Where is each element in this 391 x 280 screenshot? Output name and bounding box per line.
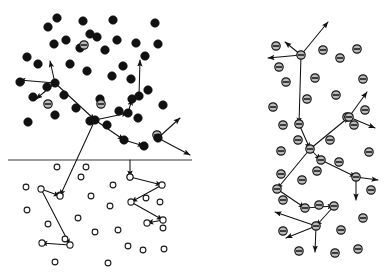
open-particle (83, 164, 89, 170)
hatched-particle (97, 100, 105, 108)
open-particle (160, 225, 166, 231)
hatched-particle (279, 196, 287, 204)
open-particle (140, 247, 146, 253)
solid-particle (51, 111, 60, 120)
solid-particle (134, 114, 143, 123)
solid-particle (53, 14, 62, 23)
open-particle (62, 236, 68, 242)
hatched-particle (277, 147, 285, 155)
open-particle (128, 199, 134, 205)
open-particle (157, 199, 163, 205)
hatched-particle (337, 226, 345, 234)
hatched-particle (319, 46, 327, 54)
solid-particle (159, 101, 168, 110)
solid-particle (16, 78, 25, 87)
trajectory-arrow (139, 60, 140, 96)
open-particle (159, 182, 165, 188)
solid-particle (120, 136, 129, 145)
hatched-particle (335, 158, 343, 166)
solid-particle (140, 142, 149, 151)
hatched-particle (301, 204, 309, 212)
hatched-particle (306, 145, 314, 153)
open-particle (92, 229, 98, 235)
trajectory-arrow (286, 226, 316, 238)
hatched-particle (295, 247, 303, 255)
hatched-particle (279, 121, 287, 129)
hatched-particle (312, 222, 320, 230)
open-particle (67, 242, 73, 248)
solid-particle (103, 121, 112, 130)
open-particle (107, 203, 113, 209)
open-particle (45, 221, 51, 227)
open-particle (23, 184, 29, 190)
trajectory-arrow (158, 138, 190, 155)
right-panel (268, 22, 378, 257)
hatched-particle (336, 54, 344, 62)
open-particle-group (23, 164, 167, 266)
open-particle (24, 207, 30, 213)
hatched-particle (345, 113, 353, 121)
solid-particle (108, 72, 117, 81)
open-particle (115, 227, 121, 233)
solid-particle (83, 67, 92, 76)
hatched-particle (326, 136, 334, 144)
open-particle (88, 193, 94, 199)
hatched-particle (80, 41, 88, 49)
trajectory-arrow (95, 113, 128, 120)
hatched-particle (330, 202, 338, 210)
hatched-particle (44, 100, 52, 108)
hatched-particle (295, 120, 303, 128)
hatched-particle (298, 176, 306, 184)
open-particle (75, 215, 81, 221)
left-panel (8, 14, 192, 266)
solid-particle (93, 33, 102, 42)
hatched-particle (303, 95, 311, 103)
hatched-particle (353, 45, 361, 53)
hatched-particle (331, 249, 339, 257)
solid-particle (151, 19, 160, 28)
open-particle (127, 174, 133, 180)
solid-particle (24, 118, 33, 127)
solid-particle (113, 36, 122, 45)
open-particle (105, 260, 111, 266)
trajectory-diagram (0, 0, 391, 280)
hatched-particle (313, 167, 321, 175)
hatched-particle (359, 75, 367, 83)
hatched-particle (317, 156, 325, 164)
solid-particle (72, 104, 81, 113)
solid-particle (44, 23, 53, 32)
open-particle (160, 217, 166, 223)
hatched-particle (273, 185, 281, 193)
solid-particle (154, 134, 163, 143)
trajectory-arrow (299, 55, 301, 124)
hatched-particle (297, 51, 305, 59)
trajectory-arrow (268, 55, 301, 58)
solid-particle (127, 75, 136, 84)
hatched-particle (282, 78, 290, 86)
solid-particle (43, 83, 52, 92)
trajectory-arrow (60, 120, 95, 196)
hatched-particle (332, 91, 340, 99)
solid-particle (135, 92, 144, 101)
solid-particle (79, 17, 88, 26)
hatched-particle (272, 42, 280, 50)
solid-particle (60, 91, 69, 100)
open-particle (52, 259, 58, 265)
hatched-particle (315, 201, 323, 209)
open-particle (161, 246, 167, 252)
hatched-particle (269, 103, 277, 111)
hatched-particle (294, 136, 302, 144)
hatched-particle (361, 106, 369, 114)
figure-root (0, 0, 391, 280)
solid-particle (91, 116, 100, 125)
solid-particle (141, 52, 150, 61)
open-particle (54, 164, 60, 170)
hatched-particle (279, 227, 287, 235)
solid-particle-group (16, 14, 168, 130)
hatched-particle (311, 74, 319, 82)
hatched-particle (365, 148, 373, 156)
solid-particle (62, 36, 71, 45)
open-particle (38, 186, 44, 192)
solid-particle (34, 60, 43, 69)
left-open-trajectory-arrows (41, 160, 163, 245)
